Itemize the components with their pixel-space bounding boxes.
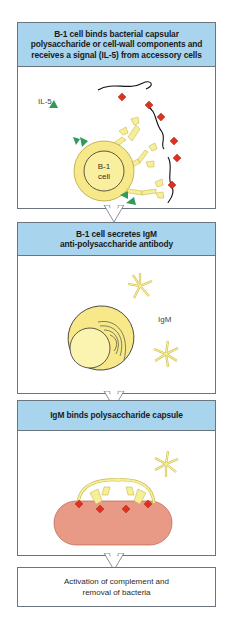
- step-3-panel: IgM binds polysaccharide capsule: [17, 400, 216, 556]
- il5-receptor-icon: [80, 137, 88, 147]
- step-2-header-line-1: B-1 cell secretes IgM: [76, 229, 157, 239]
- outcome-line-2: removal of bacteria: [82, 587, 150, 598]
- antigen-icon: [173, 154, 181, 162]
- igm-label: IgM: [158, 315, 172, 324]
- step-4-outcome-box: Activation of complement and removal of …: [17, 567, 216, 607]
- il5-receptor-icon: [73, 137, 80, 145]
- antigen-icon: [170, 137, 178, 145]
- antigen-icon: [118, 93, 126, 101]
- step-3-illustration: [18, 431, 215, 555]
- step-2-header: B-1 cell secretes IgM anti-polysaccharid…: [18, 223, 215, 256]
- step-2-illustration: IgM: [18, 256, 215, 393]
- b1-cell-binding-diagram: IL-5: [18, 67, 215, 208]
- outcome-line-1: Activation of complement and: [64, 576, 169, 587]
- il5-label: IL-5: [38, 97, 52, 106]
- b1-cell-nucleus-icon: [84, 151, 124, 191]
- igm-binding-capsule-diagram: [18, 431, 215, 555]
- step-2-header-line-2: anti-polysaccharide antibody: [60, 239, 173, 249]
- step-1-illustration: IL-5: [18, 67, 215, 208]
- step-3-header-line-1: IgM binds polysaccharide capsule: [50, 410, 183, 420]
- antigen-icon: [145, 101, 153, 109]
- step-1-header-line-1: B-1 cell binds bacterial capsular: [54, 29, 179, 39]
- polysaccharide-chain-icon: [146, 105, 164, 149]
- step-1-header-line-2: polysaccharide or cell-wall components a…: [31, 39, 203, 49]
- step-3-header: IgM binds polysaccharide capsule: [18, 401, 215, 431]
- polysaccharide-chain-icon: [98, 82, 151, 90]
- antigen-icon: [168, 181, 176, 189]
- polysaccharide-chain-icon: [168, 157, 173, 203]
- plasma-cell-nucleus-icon: [70, 328, 110, 368]
- step-1-panel: B-1 cell binds bacterial capsular polysa…: [17, 22, 216, 209]
- b1-cell-label: B-1: [98, 162, 111, 171]
- step-1-header-line-3: receives a signal (IL-5) from accessory …: [31, 50, 202, 60]
- b1-cell-label: cell: [98, 172, 110, 181]
- bacterium-icon: [54, 501, 172, 545]
- igm-secretion-diagram: IgM: [18, 256, 215, 393]
- antigen-icon: [157, 113, 165, 121]
- step-1-header: B-1 cell binds bacterial capsular polysa…: [18, 23, 215, 67]
- step-2-panel: B-1 cell secretes IgM anti-polysaccharid…: [17, 222, 216, 394]
